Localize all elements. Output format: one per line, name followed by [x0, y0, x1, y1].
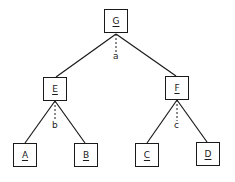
node-f: F — [165, 76, 189, 100]
edge-g-e — [56, 34, 116, 77]
node-d: D — [196, 142, 220, 166]
edge-e-a — [25, 101, 55, 143]
dashed-label-c: c — [174, 121, 179, 130]
edge-e-b — [55, 101, 85, 143]
node-g-label: G — [113, 16, 120, 26]
dashed-label-b: b — [52, 121, 58, 130]
edge-f-c — [147, 100, 177, 143]
dashed-label-a: a — [113, 52, 119, 61]
node-c-label: C — [144, 150, 150, 160]
node-b: B — [74, 143, 98, 167]
node-g: G — [104, 9, 128, 33]
node-e: E — [43, 77, 67, 101]
node-f-label: F — [174, 83, 179, 93]
node-a: A — [13, 143, 37, 167]
edge-g-f — [116, 34, 176, 76]
node-a-label: A — [22, 150, 28, 160]
node-c: C — [135, 143, 159, 167]
node-d-label: D — [205, 149, 212, 159]
node-e-label: E — [52, 84, 58, 94]
node-b-label: B — [83, 150, 89, 160]
edge-f-d — [177, 100, 207, 142]
